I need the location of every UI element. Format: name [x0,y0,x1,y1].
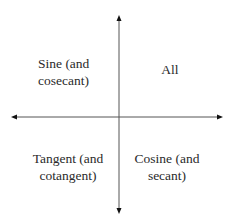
quadrant-label-top-left: Sine (and cosecant) [38,55,98,89]
quadrant-label-bottom-right: Cosine (and secant) [128,150,206,184]
quadrant-text-line: All [150,61,190,78]
quadrant-text-line: cotangent) [26,167,110,184]
quadrant-label-top-right: All [150,61,190,78]
quadrant-label-bottom-left: Tangent (and cotangent) [26,150,110,184]
vertical-axis [117,15,122,214]
axes [0,0,232,224]
arrow-left-icon [11,115,17,120]
arrow-down-icon [117,208,122,214]
quadrant-text-line: Cosine (and [128,150,206,167]
arrow-right-icon [217,115,223,120]
quadrant-text-line: cosecant) [38,72,98,89]
quadrant-text-line: Tangent (and [26,150,110,167]
horizontal-axis [11,115,223,120]
arrow-up-icon [117,15,122,21]
quadrant-diagram: Sine (and cosecant) All Tangent (and cot… [0,0,232,224]
quadrant-text-line: secant) [128,167,206,184]
quadrant-text-line: Sine (and [38,55,98,72]
